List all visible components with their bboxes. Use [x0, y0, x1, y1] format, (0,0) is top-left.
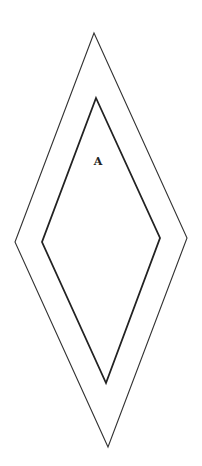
diamond-diagram	[0, 0, 202, 466]
outer-rhombus	[15, 33, 187, 447]
label-a: A	[94, 155, 103, 168]
